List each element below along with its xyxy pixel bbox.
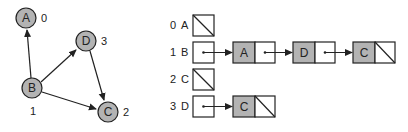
list-node-d: D — [293, 42, 352, 63]
graph-diagram: A 0 B 1 C 2 D 3 0 A 1 B — [0, 0, 408, 132]
node-a-label: A — [22, 11, 30, 25]
list-node-label: A — [240, 46, 248, 60]
adj-row-0: 0 A — [170, 15, 214, 36]
node-b-label: B — [28, 81, 36, 95]
node-d-label: D — [82, 34, 91, 48]
adjacency-list: 0 A 1 B A D — [170, 15, 395, 117]
edge-d-c — [90, 51, 104, 100]
list-node-label: C — [240, 100, 249, 114]
row-index: 3 — [170, 100, 176, 112]
node-d-index: 3 — [101, 35, 107, 47]
row-index: 0 — [170, 19, 176, 31]
node-a: A 0 — [16, 8, 47, 28]
list-node-a: A — [233, 42, 292, 63]
adj-row-2: 2 C — [170, 69, 214, 90]
list-node-c: C — [353, 42, 395, 63]
edge-b-c — [42, 92, 96, 109]
row-index: 2 — [170, 73, 176, 85]
node-b: B 1 — [22, 78, 42, 117]
node-d: D 3 — [76, 31, 107, 51]
row-vertex: C — [181, 73, 189, 85]
row-vertex: A — [181, 19, 189, 31]
node-c-index: 2 — [123, 106, 129, 118]
node-c-label: C — [104, 105, 113, 119]
node-b-index: 1 — [30, 105, 36, 117]
adj-row-3: 3 D C — [170, 96, 275, 117]
row-vertex: B — [181, 46, 188, 58]
row-vertex: D — [181, 100, 189, 112]
list-node-c: C — [233, 96, 275, 117]
row-index: 1 — [170, 46, 176, 58]
node-a-index: 0 — [41, 12, 47, 24]
node-c: C 2 — [98, 102, 129, 122]
list-node-label: D — [300, 46, 309, 60]
adj-row-1: 1 B A D — [170, 42, 395, 63]
list-node-label: C — [360, 46, 369, 60]
edge-b-d — [41, 50, 76, 82]
edge-b-a — [27, 30, 31, 78]
